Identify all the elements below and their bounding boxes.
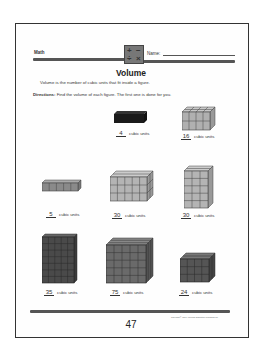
figure-3-answer: 5cubic units (46, 211, 79, 218)
name-label: Name: (147, 51, 160, 56)
directions-text: Find the volume of each figure. The firs… (57, 92, 172, 97)
figure-5-answer: 30cubic units (181, 212, 214, 219)
figure-4-answer: 30cubic units (112, 212, 145, 219)
figure-4-cube (110, 168, 154, 202)
intro-text: Volume is the number of cubic units that… (40, 80, 150, 85)
figure-7-answer: 75cubic units (110, 289, 143, 296)
figure-1-cube (114, 108, 148, 124)
directions: Directions: Find the volume of each figu… (33, 92, 171, 97)
figure-6-cube (42, 232, 78, 284)
figure-7-cube (106, 236, 154, 284)
copyright: Copyright © 1997 American Education Publ… (171, 316, 218, 318)
figure-8-cube (180, 251, 216, 283)
figure-3-cube (42, 178, 82, 192)
header-rule-left (33, 58, 125, 61)
figure-5-cube (184, 163, 214, 209)
figure-6-answer: 35cubic units (44, 289, 77, 296)
math-operations-logo: + − ÷ × (124, 45, 144, 64)
figure-1-answer: 4cubic units (116, 130, 149, 137)
name-field-line (163, 55, 235, 56)
divide-icon: ÷ (127, 55, 131, 63)
figure-8-answer: 24cubic units (179, 289, 212, 296)
page-number: 47 (0, 319, 262, 330)
subject-label: Math (34, 50, 45, 55)
times-icon: × (136, 55, 141, 63)
page-title: Volume (0, 68, 262, 78)
footer-rule (30, 310, 230, 313)
figure-2-answer: 16cubic units (181, 133, 214, 140)
directions-label: Directions: (33, 92, 55, 97)
header-rule-right (143, 60, 235, 63)
figure-2-cube (182, 103, 216, 131)
